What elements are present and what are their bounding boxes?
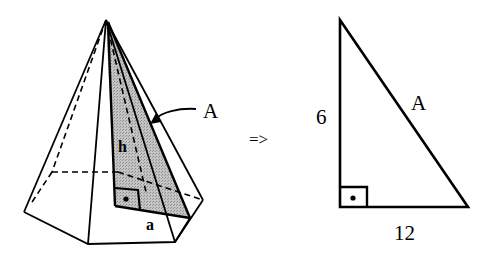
label-6: 6 xyxy=(316,105,327,129)
pointer-arrow xyxy=(150,109,196,124)
hexagonal-pyramid: h a A xyxy=(24,20,219,244)
label-A-pyramid: A xyxy=(203,99,219,123)
label-a: a xyxy=(146,216,154,233)
diagram-canvas: h a A => 6 A 12 xyxy=(0,0,486,260)
label-h: h xyxy=(118,138,127,155)
triangle-outline xyxy=(340,20,468,207)
right-angle-marker-triangle xyxy=(340,187,367,207)
label-12: 12 xyxy=(394,221,415,245)
right-triangle: 6 A 12 xyxy=(316,20,468,245)
implies-arrow: => xyxy=(249,130,268,149)
label-A-triangle: A xyxy=(411,91,427,115)
